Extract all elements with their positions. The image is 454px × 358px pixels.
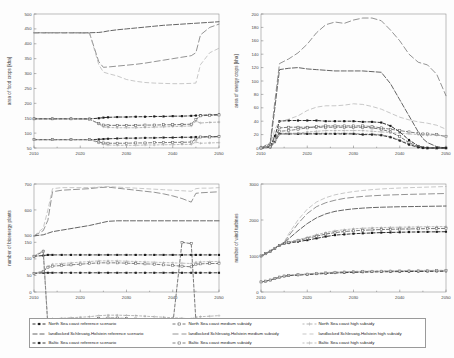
svg-text:number of wind turbines: number of wind turbines [234, 213, 239, 263]
svg-text:2020: 2020 [303, 295, 313, 300]
svg-text:150: 150 [25, 116, 33, 121]
svg-text:2010: 2010 [29, 151, 39, 156]
svg-text:2040: 2040 [395, 151, 405, 156]
svg-text:area of energy crops [kha]: area of energy crops [kha] [234, 54, 239, 107]
svg-text:2040: 2040 [395, 295, 405, 300]
legend-item[interactable]: landlocked Schleswig-Holstein medium sub… [172, 329, 302, 339]
legend-label: North Sea coast high subsidy [319, 320, 375, 328]
food-crops-plot: 5010015020025030035040045050020102020203… [0, 2, 227, 174]
svg-text:500: 500 [25, 233, 33, 238]
svg-text:160: 160 [252, 38, 260, 43]
svg-text:area of food crops [kha]: area of food crops [kha] [7, 57, 12, 105]
svg-text:600: 600 [25, 208, 33, 213]
svg-text:200: 200 [252, 12, 260, 17]
svg-text:100: 100 [25, 256, 33, 261]
svg-text:2040: 2040 [168, 295, 178, 300]
svg-text:200: 200 [25, 101, 33, 106]
legend-label: North Sea coast reference scenario [49, 320, 117, 328]
legend-swatch-icon [32, 330, 47, 338]
chart-panel-energy-crops: 0204060801001201401601802002010202020302… [227, 2, 454, 174]
svg-text:80: 80 [254, 92, 259, 97]
wind-turbines-plot: 010002000300020102020203020402050number … [227, 176, 454, 318]
legend-label: Baltic Sea coast reference scenario [49, 339, 117, 347]
svg-text:40: 40 [254, 119, 259, 124]
svg-text:100: 100 [25, 131, 33, 136]
legend-item[interactable]: Baltic Sea coast high subsidy [302, 338, 428, 348]
svg-text:2050: 2050 [441, 151, 451, 156]
svg-text:140: 140 [252, 52, 260, 57]
svg-text:2020: 2020 [76, 151, 86, 156]
legend-swatch-icon [302, 330, 317, 338]
energy-crops-plot: 0204060801001201401601802002010202020302… [227, 2, 454, 174]
svg-text:2030: 2030 [122, 295, 132, 300]
legend-swatch-icon [32, 339, 47, 347]
legend-label: landlocked Schleswig-Holstein medium sub… [189, 330, 279, 338]
svg-text:700: 700 [25, 182, 33, 187]
svg-text:3000: 3000 [249, 182, 259, 187]
svg-text:2050: 2050 [214, 295, 224, 300]
svg-text:2050: 2050 [214, 151, 224, 156]
svg-text:2010: 2010 [256, 151, 266, 156]
svg-text:2030: 2030 [349, 151, 359, 156]
legend-item[interactable]: Baltic Sea coast medium subsidy [172, 338, 302, 348]
svg-text:20: 20 [254, 132, 259, 137]
svg-text:2040: 2040 [168, 151, 178, 156]
legend-swatch-icon [302, 339, 317, 347]
svg-text:2020: 2020 [303, 151, 313, 156]
svg-text:500: 500 [25, 12, 33, 17]
svg-text:300: 300 [25, 71, 33, 76]
svg-text:2050: 2050 [441, 295, 451, 300]
svg-text:450: 450 [25, 26, 33, 31]
legend-label: Baltic Sea coast high subsidy [319, 339, 375, 347]
chart-panel-bioenergy-plants: 05010015050060070020102020203020402050nu… [0, 176, 227, 318]
legend-swatch-icon [302, 320, 317, 328]
svg-text:2030: 2030 [349, 295, 359, 300]
legend-label: landlocked Schleswig-Holstein reference … [49, 330, 144, 338]
chart-panel-wind-turbines: 010002000300020102020203020402050number … [227, 176, 454, 318]
legend-item[interactable]: Baltic Sea coast reference scenario [32, 338, 172, 348]
figure-container: 5010015020025030035040045050020102020203… [0, 0, 454, 358]
svg-text:2020: 2020 [76, 295, 86, 300]
legend-label: Baltic Sea coast medium subsidy [189, 339, 252, 347]
svg-text:120: 120 [252, 65, 260, 70]
legend-swatch-icon [172, 330, 187, 338]
svg-text:2010: 2010 [256, 295, 266, 300]
svg-text:2030: 2030 [122, 151, 132, 156]
bioenergy-plants-plot: 05010015050060070020102020203020402050nu… [0, 176, 227, 318]
svg-text:50: 50 [27, 273, 32, 278]
legend-swatch-icon [172, 339, 187, 347]
legend-label: landlocked Schleswig-Holstein high subsi… [319, 330, 402, 338]
legend-swatch-icon [32, 320, 47, 328]
legend-swatch-icon [172, 320, 187, 328]
svg-text:350: 350 [25, 56, 33, 61]
svg-text:150: 150 [25, 240, 33, 245]
legend-item[interactable]: North Sea coast medium subsidy [172, 319, 302, 329]
svg-text:180: 180 [252, 25, 260, 30]
svg-text:2000: 2000 [249, 218, 259, 223]
legend-item[interactable]: landlocked Schleswig-Holstein high subsi… [302, 329, 428, 339]
svg-text:1000: 1000 [249, 254, 259, 259]
chart-panel-food-crops: 5010015020025030035040045050020102020203… [0, 2, 227, 174]
legend-item[interactable]: landlocked Schleswig-Holstein reference … [32, 329, 172, 339]
svg-text:number of bioenergy plants: number of bioenergy plants [7, 209, 12, 265]
legend-item[interactable]: North Sea coast high subsidy [302, 319, 428, 329]
svg-text:250: 250 [25, 86, 33, 91]
legend-grid: North Sea coast reference scenarioNorth … [30, 319, 425, 347]
legend-item[interactable]: North Sea coast reference scenario [32, 319, 172, 329]
svg-text:60: 60 [254, 105, 259, 110]
legend-box: North Sea coast reference scenarioNorth … [29, 318, 426, 348]
legend-label: North Sea coast medium subsidy [189, 320, 252, 328]
svg-text:100: 100 [252, 79, 260, 84]
svg-text:400: 400 [25, 41, 33, 46]
svg-text:2010: 2010 [29, 295, 39, 300]
